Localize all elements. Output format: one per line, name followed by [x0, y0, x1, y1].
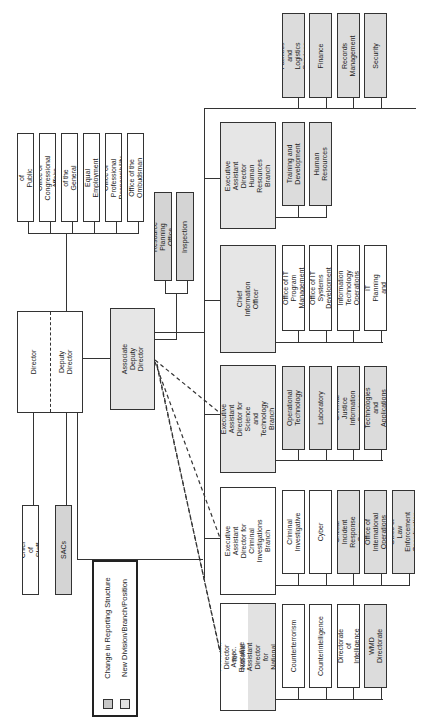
- human-resources[interactable]: Human Resources: [309, 122, 332, 206]
- connector: [326, 573, 327, 585]
- connector: [204, 300, 220, 301]
- information-technology-operations[interactable]: Information Technology Operations: [337, 245, 360, 331]
- chief-information-officer[interactable]: Chief Information Officer: [220, 245, 276, 353]
- connector: [275, 585, 410, 586]
- connector: [298, 573, 299, 585]
- office-general-counsel[interactable]: Office of the General Counsel: [61, 133, 78, 222]
- connector: [381, 687, 382, 699]
- legend-swatch-change: [103, 699, 113, 709]
- connector: [326, 687, 327, 699]
- chief-of-staff[interactable]: Chief of Staff: [22, 505, 39, 595]
- connector: [326, 205, 327, 217]
- connector: [28, 233, 139, 234]
- security[interactable]: Security: [364, 13, 387, 98]
- office-public-affairs[interactable]: Office of Public Affairs: [17, 133, 34, 222]
- connector: [275, 217, 327, 218]
- connector: [381, 330, 382, 342]
- connector: [353, 97, 354, 109]
- connector: [154, 339, 177, 340]
- connector: [82, 358, 110, 359]
- connector: [298, 97, 299, 109]
- office-equal-employment-opportunity[interactable]: Office of Equal Employment Opportunity: [83, 133, 100, 222]
- connector: [298, 687, 299, 699]
- inspection[interactable]: Inspection: [176, 192, 194, 281]
- ead-human-resources-branch[interactable]: Executive Assistant Director Human Resou…: [220, 122, 276, 229]
- director: Director: [18, 312, 50, 412]
- training-and-development[interactable]: Training and Development: [282, 122, 305, 206]
- connector: [381, 573, 382, 585]
- legend-swatch-new: [120, 699, 130, 709]
- office-professional-responsibility[interactable]: Office of Professional Responsibility: [105, 133, 122, 222]
- connector: [94, 221, 95, 233]
- deputy-director: Deputy Director: [50, 312, 82, 412]
- connector: [72, 221, 73, 233]
- office-it-systems-development[interactable]: Office of IT Systems Development: [309, 245, 332, 331]
- connector: [275, 699, 383, 700]
- connector: [204, 178, 220, 179]
- legend-item-change: Change in Reporting Structure: [100, 562, 114, 694]
- connector: [204, 538, 220, 539]
- office-congressional-affairs[interactable]: Office of Congressional Affairs: [39, 133, 56, 222]
- sacs[interactable]: SACs: [55, 505, 72, 595]
- associate-deputy-director[interactable]: Associate Deputy Director: [110, 308, 155, 410]
- connector: [116, 221, 117, 233]
- connector: [298, 330, 299, 342]
- ead-national-security-branch[interactable]: Executive Assistant Director for Nationa…: [220, 603, 276, 711]
- connector: [353, 687, 354, 699]
- connector: [165, 293, 188, 294]
- connector: [187, 280, 188, 293]
- counterterrorism[interactable]: Counterterrorism: [282, 604, 305, 688]
- connector: [409, 573, 410, 585]
- critical-incident-response-group[interactable]: Critical Incident Response Group: [337, 490, 360, 574]
- connector: [204, 414, 220, 415]
- connector: [28, 221, 29, 233]
- connector: [50, 221, 51, 233]
- legend: Change in Reporting Structure New Divisi…: [92, 560, 138, 717]
- office-ombudsman[interactable]: Office of the Ombudsman: [127, 133, 144, 222]
- connector: [326, 97, 327, 109]
- records-management[interactable]: Records Management: [337, 13, 360, 98]
- ead-science-technology-branch[interactable]: Executive Assistant Director for Science…: [220, 365, 276, 473]
- connector: [33, 412, 34, 505]
- resource-planning-office[interactable]: Resource Planning Office: [154, 192, 172, 281]
- criminal-justice-information-services[interactable]: Criminal Justice Information Services: [337, 366, 360, 450]
- cyber[interactable]: Cyber: [309, 490, 332, 574]
- office-law-enforcement-coordination[interactable]: Office of Law Enforcement Coordination: [392, 490, 415, 574]
- finance[interactable]: Finance: [309, 13, 332, 98]
- connector: [353, 573, 354, 585]
- connector: [165, 280, 166, 293]
- ead-criminal-investigations-branch[interactable]: Executive Assistant Director for Crimina…: [220, 487, 276, 595]
- director-box[interactable]: Director Deputy Director: [17, 311, 83, 413]
- office-it-planning-policy[interactable]: Office of IT Planning and Policy: [364, 245, 387, 331]
- connector: [298, 205, 299, 217]
- special-technologies-applications-office[interactable]: Special Technologies and Applications Of…: [364, 366, 387, 450]
- connector: [138, 221, 139, 233]
- laboratory[interactable]: Laboratory: [309, 366, 332, 450]
- connector: [275, 342, 383, 343]
- counterintelligence[interactable]: Counterintelligence: [309, 604, 332, 688]
- office-international-operations[interactable]: Office of International Operations: [364, 490, 387, 574]
- connector: [353, 330, 354, 342]
- connector: [77, 412, 78, 560]
- legend-item-new: New Division/Branch/Position: [117, 562, 131, 694]
- directorate-of-intelligence[interactable]: Directorate of Intelligence: [337, 604, 360, 688]
- assoc-ead-nsb: Assoc. Executive Assistant Director for …: [248, 604, 275, 710]
- criminal-investigative[interactable]: Criminal Investigative: [282, 490, 305, 574]
- connector: [326, 330, 327, 342]
- connector: [275, 460, 383, 461]
- wmd-directorate[interactable]: WMD Directorate: [364, 604, 387, 688]
- connector: [154, 332, 205, 333]
- operational-technology[interactable]: Operational Technology: [282, 366, 305, 450]
- connector: [66, 412, 67, 505]
- connector: [66, 233, 67, 313]
- office-it-program-management[interactable]: Office of IT Program Management: [282, 245, 305, 331]
- connector: [381, 97, 382, 109]
- connector: [204, 108, 416, 109]
- facilities-logistics-services[interactable]: Facilities and Logistics Services: [282, 13, 305, 98]
